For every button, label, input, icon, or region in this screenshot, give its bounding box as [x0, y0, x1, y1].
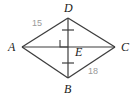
right-angle-mark-at-e [60, 40, 68, 47]
geometry-figure: A D C B E 15 18 [0, 0, 134, 98]
vertex-label-b: B [64, 82, 72, 96]
vertex-label-e: E [74, 45, 83, 59]
side-ba [22, 47, 68, 78]
side-dc [68, 18, 115, 47]
vertex-label-d: D [63, 1, 73, 15]
vertex-label-a: A [7, 40, 16, 54]
measure-label-side-ad: 15 [32, 18, 42, 28]
rhombus-diagram-svg: A D C B E 15 18 [0, 0, 134, 98]
side-ad [22, 18, 68, 47]
vertex-label-c: C [121, 40, 130, 54]
measure-label-side-bc: 18 [88, 66, 98, 76]
